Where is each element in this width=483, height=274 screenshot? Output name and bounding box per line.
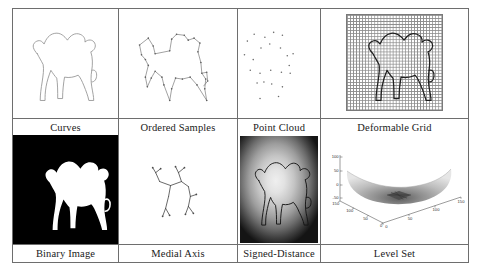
deformable-grid-contour xyxy=(321,9,468,118)
x-tick-50: 50 xyxy=(408,216,413,221)
panel-label-point-cloud-text: Point Cloud xyxy=(253,122,305,133)
ordered-samples-vertices xyxy=(139,33,209,101)
panel-medial-axis xyxy=(119,135,238,244)
y-tick-0: 0 xyxy=(380,223,383,228)
level-set-z-ticks xyxy=(340,157,343,198)
x-tick-0: 0 xyxy=(385,224,388,229)
x-tick-150: 150 xyxy=(458,199,466,204)
camel-tail-path xyxy=(92,70,97,82)
panel-label-point-cloud: Point Cloud xyxy=(238,118,321,135)
panel-ordered-samples xyxy=(119,9,238,118)
y-tick-50: 50 xyxy=(363,216,368,221)
panel-label-ordered-samples-text: Ordered Samples xyxy=(141,122,216,133)
curves-image xyxy=(13,9,118,118)
z-tick-100: 100 xyxy=(332,154,340,159)
level-set-z-tick-labels: 100 50 0 -50 xyxy=(332,154,340,200)
x-tick-100: 100 xyxy=(433,207,441,212)
panel-binary-image xyxy=(13,135,119,244)
ordered-samples-image xyxy=(119,9,237,118)
panel-label-medial-axis: Medial Axis xyxy=(119,244,238,262)
signed-distance-zero-contour xyxy=(238,135,320,244)
panel-label-binary-image-text: Binary Image xyxy=(36,248,95,259)
camel-contour-bold-path xyxy=(369,33,433,100)
panel-point-cloud xyxy=(238,9,321,118)
figure-root: Curves Ordered Samples Point Cloud Defor… xyxy=(0,0,483,274)
panel-label-curves-text: Curves xyxy=(50,122,81,133)
panel-label-curves: Curves xyxy=(13,118,119,135)
panel-label-deformable-grid-text: Deformable Grid xyxy=(357,122,431,133)
y-tick-150: 150 xyxy=(332,201,340,206)
camel-contour-path xyxy=(33,33,95,100)
panel-signed-distance xyxy=(238,135,321,244)
panel-level-set: 100 50 0 -50 150 100 xyxy=(321,135,468,244)
medial-axis-skeleton xyxy=(153,167,197,217)
z-tick-50: 50 xyxy=(334,168,339,173)
panel-label-signed-distance: Signed-Distance xyxy=(238,244,321,262)
panel-label-deformable-grid: Deformable Grid xyxy=(321,118,468,135)
camel-tail-silhouette-path xyxy=(105,199,110,211)
panel-label-ordered-samples: Ordered Samples xyxy=(119,118,238,135)
panel-table: Curves Ordered Samples Point Cloud Defor… xyxy=(12,8,469,263)
camel-silhouette-path xyxy=(46,162,109,231)
ordered-samples-polygon xyxy=(140,34,207,100)
camel-zero-level-path xyxy=(255,163,309,225)
y-tick-100: 100 xyxy=(346,208,354,213)
z-tick-n50: -50 xyxy=(333,195,340,200)
point-cloud-points xyxy=(244,32,294,100)
level-set-y-ticks xyxy=(338,201,383,224)
camel-tail-bold-path xyxy=(429,70,434,82)
z-tick-0: 0 xyxy=(336,182,339,187)
panel-label-level-set: Level Set xyxy=(321,244,468,262)
panel-label-level-set-text: Level Set xyxy=(374,248,415,259)
level-set-y-tick-labels: 150 100 50 0 xyxy=(332,201,383,228)
point-cloud-image xyxy=(238,9,320,118)
panel-label-signed-distance-text: Signed-Distance xyxy=(243,248,315,259)
medial-axis-image xyxy=(119,135,237,244)
panel-label-medial-axis-text: Medial Axis xyxy=(151,248,204,259)
panel-deformable-grid xyxy=(321,9,468,118)
binary-image-silhouette xyxy=(13,135,118,244)
panel-curves xyxy=(13,9,119,118)
level-set-plot: 100 50 0 -50 150 100 xyxy=(321,135,468,244)
panel-label-binary-image: Binary Image xyxy=(13,244,119,262)
camel-tail-zero-level-path xyxy=(306,197,311,208)
